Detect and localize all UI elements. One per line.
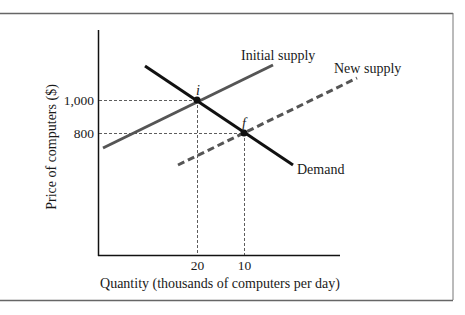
- demand-label: Demand: [297, 162, 344, 177]
- y-tick-1000: 1,000: [64, 93, 95, 108]
- initial-supply-label: Initial supply: [241, 48, 315, 63]
- x-tick-f: 10: [238, 258, 252, 273]
- y-axis-title: Price of computers ($): [44, 84, 60, 210]
- x-tick-i: 20: [191, 258, 205, 273]
- x-axis-title: Quantity (thousands of computers per day…: [100, 276, 340, 292]
- point-label-i: i: [196, 83, 200, 98]
- y-tick-800: 800: [74, 126, 95, 141]
- guide-lines: [99, 100, 245, 255]
- new-supply-line: [178, 78, 357, 165]
- supply-demand-chart: i f Initial supply New supply Demand 1,0…: [0, 0, 465, 315]
- point-label-f: f: [242, 116, 248, 131]
- new-supply-label: New supply: [334, 61, 401, 76]
